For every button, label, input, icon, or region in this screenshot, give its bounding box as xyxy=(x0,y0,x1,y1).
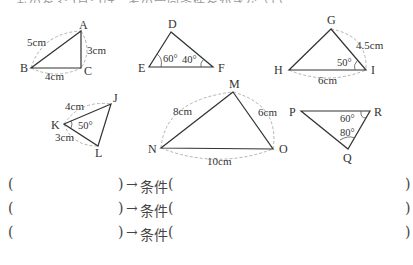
triangle-def xyxy=(149,32,213,67)
vertex-label: E xyxy=(138,61,145,75)
open-paren: ( xyxy=(8,176,13,192)
vertex-label: Q xyxy=(343,151,352,165)
open-paren: ( xyxy=(8,200,13,216)
condition-close-paren: ) xyxy=(405,176,410,192)
vertex-label: C xyxy=(84,64,92,78)
triangle-ghi xyxy=(289,29,366,70)
vertex-label: O xyxy=(279,142,288,156)
condition-open-paren: ( xyxy=(168,224,173,240)
triangle-figures: A B C 5cm 3cm 4cm D E F 60° 40° G H I 4.… xyxy=(0,0,413,170)
close-paren: ) xyxy=(118,176,123,192)
vertex-label: I xyxy=(371,63,375,77)
vertex-label: K xyxy=(51,118,60,132)
vertex-label: B xyxy=(20,61,28,75)
vertex-label: M xyxy=(229,77,240,91)
side-length: 4cm xyxy=(45,70,64,82)
side-length: 4cm xyxy=(65,100,84,112)
vertex-label: N xyxy=(148,142,157,156)
condition-label: 条件 xyxy=(140,176,168,196)
side-length: 6cm xyxy=(258,106,277,118)
close-paren: ) xyxy=(118,224,123,240)
side-length: 10cm xyxy=(207,155,232,167)
vertex-label: H xyxy=(274,63,283,77)
condition-open-paren: ( xyxy=(168,200,173,216)
condition-label: 条件 xyxy=(140,200,168,220)
answer-row: ( ) → 条件 ( ) xyxy=(0,224,413,244)
vertex-label: J xyxy=(113,91,118,105)
vertex-label: R xyxy=(374,105,382,119)
arrow: → xyxy=(126,176,138,192)
angle-label: 40° xyxy=(182,54,197,65)
vertex-label: F xyxy=(218,61,225,75)
vertex-label: A xyxy=(79,18,88,32)
condition-label: 条件 xyxy=(140,224,168,244)
open-paren: ( xyxy=(8,224,13,240)
condition-close-paren: ) xyxy=(405,224,410,240)
side-length: 8cm xyxy=(173,105,192,117)
answer-row: ( ) → 条件 ( ) xyxy=(0,200,413,220)
vertex-label: D xyxy=(168,17,177,31)
vertex-label: L xyxy=(95,146,102,160)
vertex-label: P xyxy=(289,105,296,119)
angle-label: 50° xyxy=(78,120,93,131)
angle-label: 50° xyxy=(337,57,352,68)
arrow: → xyxy=(126,200,138,216)
side-length: 4.5cm xyxy=(356,39,384,51)
angle-label: 80° xyxy=(340,127,355,138)
condition-open-paren: ( xyxy=(168,176,173,192)
side-length: 3cm xyxy=(55,131,74,143)
angle-label: 60° xyxy=(163,53,178,64)
triangle-pqr xyxy=(301,111,370,149)
close-paren: ) xyxy=(118,200,123,216)
side-length: 5cm xyxy=(27,36,46,48)
arrow: → xyxy=(126,224,138,240)
side-length: 6cm xyxy=(318,74,337,86)
condition-close-paren: ) xyxy=(405,200,410,216)
triangle-mno xyxy=(161,92,273,149)
side-length: 3cm xyxy=(87,44,106,56)
vertex-label: G xyxy=(327,13,336,27)
answer-row: ( ) → 条件 ( ) xyxy=(0,176,413,196)
angle-label: 60° xyxy=(340,113,355,124)
